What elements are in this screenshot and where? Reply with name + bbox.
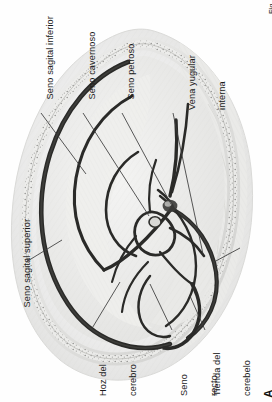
corner-mark: Fig — [268, 4, 272, 15]
label-line-2: cerebelo — [242, 352, 252, 396]
label-line-1: Tienda del — [212, 352, 222, 396]
label-seno-sagital-superior: Seno sagital superior — [12, 219, 43, 318]
label-vena-yugular-interna: Vena yugular interna — [167, 55, 247, 110]
label-hoz-del-cerebro: Hoz del cerebro — [78, 364, 158, 396]
label-seno-petroso: Seno petroso — [116, 44, 147, 110]
figure-panel-letter: A — [262, 389, 272, 398]
figure-panel: Seno sagital inferior Seno cavernoso Sen… — [0, 0, 272, 402]
label-seno-cavernoso: Seno cavernoso — [77, 32, 108, 110]
label-line-1: Seno — [179, 374, 189, 396]
label-line-2: interna — [217, 55, 227, 110]
label-line-1: Vena yugular — [187, 55, 197, 110]
label-line-2: cerebro — [128, 364, 138, 396]
label-seno-transverso: Seno transverso — [262, 233, 272, 312]
label-tienda-del-cerebelo: Tienda del cerebelo — [192, 352, 272, 396]
label-line-1: Hoz del — [98, 364, 108, 396]
label-seno-sagital-inferior: Seno sagital inferior — [35, 16, 66, 110]
